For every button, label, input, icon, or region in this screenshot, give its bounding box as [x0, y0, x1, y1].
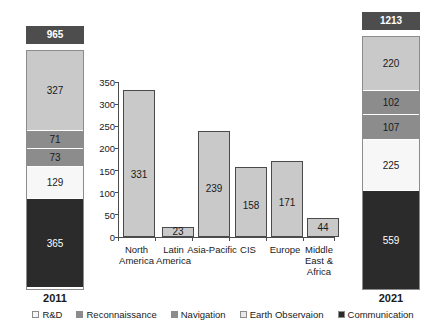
- bar-middle-east-africa[interactable]: 44: [307, 218, 339, 238]
- bar-value-asia-pacific: 239: [199, 183, 229, 194]
- y-tick-label-0: 0: [110, 232, 118, 243]
- x-label-middle-east-africa-line1: Middle: [295, 244, 343, 255]
- y-tick-label-50: 50: [104, 209, 118, 220]
- stacked-bar-2011-body: 327 71 73 129 365: [26, 50, 84, 290]
- segment-earth-observation-2011[interactable]: 327: [27, 51, 83, 131]
- y-tick-label-250: 250: [99, 121, 118, 132]
- bar-value-middle-east-africa: 44: [308, 222, 338, 233]
- stacked-bar-2021-body: 220 102 107 225 559: [362, 36, 420, 290]
- legend-item-earth-observation[interactable]: Earth Observaion: [240, 309, 324, 320]
- y-tick-label-350: 350: [99, 77, 118, 88]
- legend-swatch-navigation-icon: [171, 311, 178, 318]
- y-tick-label-100: 100: [99, 187, 118, 198]
- bar-cis[interactable]: 158: [235, 167, 267, 237]
- segment-rnd-2021[interactable]: 225: [363, 140, 419, 191]
- segment-communication-2011[interactable]: 365: [27, 199, 83, 287]
- segment-navigation-2021[interactable]: 102: [363, 91, 419, 115]
- legend-label-rnd: R&D: [42, 309, 62, 320]
- x-tick-1: [155, 237, 156, 241]
- x-label-middle-east-africa: Middle East & Africa: [295, 244, 343, 277]
- legend-swatch-rnd-icon: [32, 311, 39, 318]
- regional-bar-chart: 350 300 250 200 150 100 50 0: [88, 72, 334, 244]
- stacked-bar-2021-total: 1213: [362, 12, 420, 30]
- x-tick-5: [303, 237, 304, 241]
- chart-legend: R&D Reconnaissance Navigation Earth Obse…: [0, 309, 446, 320]
- bar-value-north-america: 331: [124, 169, 154, 180]
- stacked-bar-2021-year-label: 2021: [362, 292, 420, 304]
- bar-north-america[interactable]: 331: [123, 90, 155, 237]
- segment-reconnaissance-2011[interactable]: 73: [27, 149, 83, 167]
- x-tick-4: [266, 237, 267, 241]
- bar-value-europe: 171: [272, 197, 302, 208]
- bar-value-cis: 158: [236, 200, 266, 211]
- x-tick-6: [334, 237, 335, 241]
- bars-area: 331 23 239 158 171 44: [119, 82, 334, 237]
- legend-item-communication[interactable]: Communication: [338, 309, 414, 320]
- legend-swatch-reconnaissance-icon: [76, 311, 83, 318]
- bar-asia-pacific[interactable]: 239: [198, 131, 230, 237]
- bar-latin-america[interactable]: 23: [162, 227, 194, 237]
- legend-swatch-earth-observation-icon: [240, 311, 247, 318]
- x-tick-2: [192, 237, 193, 241]
- segment-rnd-2011[interactable]: 129: [27, 167, 83, 199]
- x-tick-0: [118, 237, 119, 241]
- legend-label-reconnaissance: Reconnaissance: [86, 309, 156, 320]
- x-tick-3: [229, 237, 230, 241]
- stacked-bar-2011-year-label: 2011: [26, 292, 84, 304]
- legend-label-navigation: Navigation: [181, 309, 226, 320]
- bar-value-latin-america: 23: [163, 226, 193, 237]
- stacked-bar-2011-total: 965: [26, 26, 84, 44]
- segment-navigation-2011[interactable]: 71: [27, 131, 83, 149]
- x-label-middle-east-africa-line2: East &: [295, 255, 343, 266]
- legend-item-reconnaissance[interactable]: Reconnaissance: [76, 309, 156, 320]
- segment-earth-observation-2021[interactable]: 220: [363, 37, 419, 91]
- x-axis-line: [118, 237, 334, 238]
- legend-item-navigation[interactable]: Navigation: [171, 309, 226, 320]
- y-tick-label-150: 150: [99, 165, 118, 176]
- legend-label-communication: Communication: [348, 309, 414, 320]
- x-label-middle-east-africa-line3: Africa: [295, 266, 343, 277]
- x-label-latin-america-line2: America: [150, 255, 197, 266]
- satellite-launch-chart-figure: 965 327 71 73 129 365 2011 1213 220 102 …: [0, 0, 446, 330]
- segment-reconnaissance-2021[interactable]: 107: [363, 115, 419, 140]
- legend-label-earth-observation: Earth Observaion: [250, 309, 324, 320]
- segment-communication-2021[interactable]: 559: [363, 191, 419, 289]
- legend-swatch-communication-icon: [338, 311, 345, 318]
- y-tick-label-200: 200: [99, 143, 118, 154]
- bar-europe[interactable]: 171: [271, 161, 303, 237]
- y-tick-label-300: 300: [99, 99, 118, 110]
- legend-item-rnd[interactable]: R&D: [32, 309, 62, 320]
